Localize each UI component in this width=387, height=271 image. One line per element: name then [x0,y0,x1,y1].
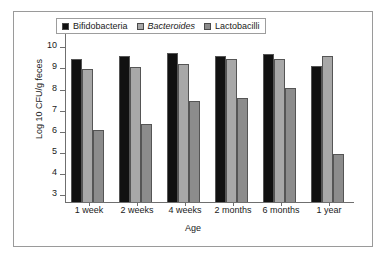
bar-bifidobacteria [263,54,274,202]
legend-label-bifidobacteria: Bifidobacteria [73,22,128,31]
bar-group: 2 months [209,40,257,202]
y-axis-tick-label: 4 [52,168,57,177]
x-axis-tick-label: 2 months [214,206,251,215]
y-axis-title: Log 10 CFU/g feces [34,29,44,169]
legend-entry-bifidobacteria: Bifidobacteria [62,22,128,31]
y-axis-tick-label: 6 [52,126,57,135]
bar-bacteroides [178,64,189,202]
bar-bacteroides [226,59,237,202]
y-axis-tick-label: 7 [52,105,57,114]
x-axis-tick-label: 1 week [75,206,104,215]
y-axis-tick-label: 9 [52,62,57,71]
bar-bifidobacteria [311,66,322,202]
bar-lactobacilli [285,88,296,202]
legend-entry-bacteroides: Bacteroides [137,22,196,31]
x-axis-tick-label: 6 months [262,206,299,215]
y-axis-tick-label: 10 [47,41,57,50]
x-axis-line [65,202,354,203]
bar-lactobacilli [141,124,152,202]
bar-bifidobacteria [215,56,226,202]
bar-group: 4 weeks [161,40,209,202]
bar-group: 6 months [257,40,305,202]
bar-lactobacilli [93,130,104,202]
bar-bifidobacteria [167,53,178,202]
x-axis-tick-label: 4 weeks [168,206,201,215]
y-axis-tick-label: 5 [52,147,57,156]
bar-lactobacilli [333,154,344,202]
bar-bacteroides [274,59,285,202]
x-axis-title: Age [14,223,372,233]
bar-bacteroides [130,67,141,202]
bar-bifidobacteria [119,56,130,202]
legend-label-lactobacilli: Lactobacilli [215,22,260,31]
chart-legend: Bifidobacteria Bacteroides Lactobacilli [56,18,266,34]
bar-lactobacilli [237,98,248,202]
legend-swatch-bifidobacteria [62,23,69,30]
bar-group: 2 weeks [113,40,161,202]
bar-lactobacilli [189,101,200,202]
y-axis-tick-label: 8 [52,84,57,93]
bar-bacteroides [82,69,93,202]
bar-bacteroides [322,56,333,202]
bar-bifidobacteria [71,59,82,202]
bar-group: 1 week [65,40,113,202]
bar-group: 1 year [305,40,353,202]
legend-swatch-lactobacilli [204,23,211,30]
x-axis-tick-label: 2 weeks [120,206,153,215]
figure-frame: Bifidobacteria Bacteroides Lactobacilli … [13,11,373,247]
plot-area: 345678910 1 week2 weeks4 weeks2 months6 … [65,40,353,202]
legend-swatch-bacteroides [137,23,144,30]
x-axis-tick-label: 1 year [316,206,341,215]
y-axis-tick-label: 3 [52,189,57,198]
legend-label-bacteroides: Bacteroides [148,22,196,31]
legend-entry-lactobacilli: Lactobacilli [204,22,260,31]
